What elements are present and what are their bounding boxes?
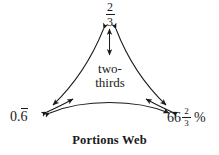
center-label-two-thirds: two- thirds: [74, 62, 146, 90]
overline-bar: [21, 108, 28, 109]
edge-inner-left: [47, 99, 73, 112]
decimal-repeating-digit: 6: [21, 109, 28, 124]
center-label-line-1: two-: [74, 62, 146, 76]
node-repeating-decimal: 0.6: [10, 109, 28, 125]
edge-decimal-percent: [50, 103, 169, 114]
percent-fraction-2-over-3: 2 3: [182, 107, 191, 128]
decimal-integer-part: 0.: [10, 109, 21, 124]
node-percent-value: 66 2 3 %: [167, 107, 206, 128]
figure-caption: Portions Web: [0, 133, 219, 148]
portions-web-figure: 2 3 two- thirds 0.6 66 2 3 % Portions We…: [0, 0, 219, 155]
fraction-denominator: 3: [106, 16, 114, 28]
fraction-numerator: 2: [106, 1, 114, 13]
percent-fraction-numerator: 2: [183, 107, 190, 116]
node-fraction-two-thirds: 2 3: [96, 1, 124, 28]
decimal-repeating-digit-group: 6: [21, 110, 28, 124]
fraction-2-over-3: 2 3: [106, 1, 115, 28]
percent-fraction-denominator: 3: [183, 119, 190, 128]
percent-whole-number: 66: [167, 110, 181, 126]
percent-sign: %: [194, 110, 206, 126]
center-label-line-2: thirds: [74, 76, 146, 90]
